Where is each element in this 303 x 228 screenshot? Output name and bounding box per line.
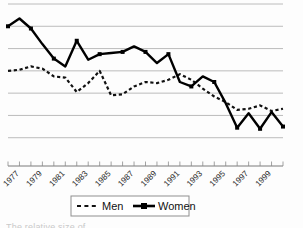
x-tick-label-1989: 1989 — [139, 169, 159, 189]
x-tick-label-1999: 1999 — [254, 169, 274, 189]
chart-figure: 1977197919811983198519871989199119931995… — [0, 0, 303, 228]
x-tick-label-1979: 1979 — [25, 169, 45, 189]
series-line-men — [8, 66, 283, 111]
marker-women-1996 — [235, 126, 239, 130]
legend-label-women: Women — [158, 200, 196, 212]
x-tick-label-1977: 1977 — [2, 169, 22, 189]
x-tick-label-1995: 1995 — [208, 169, 228, 189]
data-series — [6, 18, 285, 130]
marker-women-1986 — [121, 50, 125, 54]
x-tick-label-1981: 1981 — [47, 169, 67, 189]
marker-women-1998 — [258, 127, 262, 131]
legend-label-men: Men — [102, 200, 123, 212]
chart-legend: MenWomen — [71, 196, 196, 216]
x-tick-label-1985: 1985 — [93, 169, 113, 189]
marker-women-1988 — [144, 50, 148, 54]
x-tick-label-1987: 1987 — [116, 169, 136, 189]
marker-women-1978 — [29, 27, 33, 31]
marker-women-1980 — [52, 57, 56, 61]
marker-women-1992 — [189, 84, 193, 88]
marker-women-1976 — [6, 24, 10, 28]
x-tick-label-1993: 1993 — [185, 169, 205, 189]
x-tick-label-1997: 1997 — [231, 169, 251, 189]
x-tick-label-1983: 1983 — [70, 169, 90, 189]
x-tick-label-1991: 1991 — [162, 169, 182, 189]
cut-off-caption: The relative size of — [6, 222, 296, 228]
x-axis-ticks — [8, 162, 283, 167]
marker-women-1994 — [212, 80, 216, 84]
marker-women-1982 — [75, 39, 79, 43]
marker-women-1990 — [166, 52, 170, 56]
x-axis-tick-labels: 1977197919811983198519871989199119931995… — [0, 169, 273, 189]
line-chart: 1977197919811983198519871989199119931995… — [0, 0, 303, 228]
gridlines — [8, 4, 283, 138]
marker-women-2000 — [281, 125, 285, 129]
legend-marker-women — [141, 203, 147, 209]
marker-women-1984 — [98, 52, 102, 56]
